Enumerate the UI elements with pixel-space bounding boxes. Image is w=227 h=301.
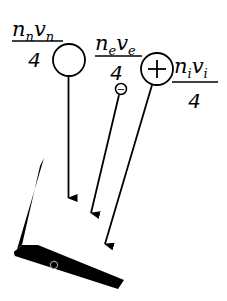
svg-text:nivi: nivi [174,54,208,81]
ion-flux-arrow [105,85,152,244]
neutral-particle-icon [53,44,85,76]
electron-v: v [116,31,128,55]
neutral-v: v [34,17,46,41]
ion-denominator: 4 [188,89,201,113]
wall-vertical-bar [14,158,44,256]
svg-text:neve: neve [95,31,136,58]
ion-n: n [174,54,188,78]
wall-horizontal-bar [14,245,124,289]
neutral-flux-label: nnvn 4 [12,17,63,72]
ion-v-sub: i [204,66,208,81]
flux-diagram: nnvn 4 neve 4 − nivi 4 [0,0,227,301]
electron-flux-label: neve 4 [95,31,142,85]
electron-n: n [95,31,109,55]
ion-v: v [192,54,204,78]
electron-flux-arrow [91,95,119,213]
electron-denominator: 4 [110,61,123,85]
neutral-denominator: 4 [28,48,41,72]
electron-symbol: − [117,84,125,95]
ion-flux-label: nivi 4 [172,54,218,113]
svg-text:nnvn: nnvn [12,17,54,44]
neutral-n: n [12,17,26,41]
